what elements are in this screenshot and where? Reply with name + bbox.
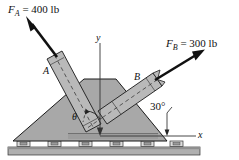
force-b-subscript: B: [173, 43, 178, 52]
force-a-value: 400: [31, 3, 48, 15]
force-b-unit: lb: [209, 37, 218, 49]
angle-30-leader: [165, 107, 172, 136]
angle-30-label: 30°: [150, 101, 165, 112]
free-body-diagram: [0, 0, 239, 160]
force-b-equals: =: [180, 37, 186, 49]
force-arrow-a: [26, 16, 57, 57]
force-a-subscript: A: [15, 9, 20, 18]
force-b-symbol: F: [166, 37, 173, 49]
ground-slab: [8, 147, 200, 155]
force-arrow-b: [155, 50, 205, 81]
angle-theta-label: θ: [72, 112, 77, 122]
axis-x-label: x: [198, 130, 202, 140]
force-b-value: 300: [189, 37, 206, 49]
point-b-label: B: [134, 72, 140, 82]
axis-y-label: y: [96, 33, 100, 43]
force-a-equals: =: [22, 3, 28, 15]
force-b-label: FB = 300 lb: [166, 38, 217, 52]
force-a-label: FA = 400 lb: [8, 4, 59, 18]
force-a-symbol: F: [8, 3, 15, 15]
roller-supports: [17, 141, 183, 147]
point-a-label: A: [43, 66, 49, 76]
force-a-unit: lb: [51, 3, 60, 15]
figure-canvas: FA = 400 lb FB = 300 lb A B y x θ 30°: [0, 0, 239, 160]
